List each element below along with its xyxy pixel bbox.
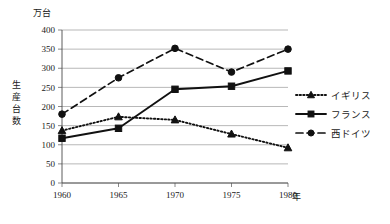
legend-label: フランス bbox=[331, 109, 371, 120]
circle-marker bbox=[308, 130, 314, 136]
x-unit-label: 年 bbox=[292, 191, 301, 202]
series-line bbox=[62, 48, 288, 114]
y-axis-title-char-3: 数 bbox=[12, 115, 21, 126]
x-tick-label: 1960 bbox=[53, 190, 72, 200]
gridlines bbox=[62, 30, 288, 183]
line-chart: 万台 生 産 台 数 050100150200250300350400 1960… bbox=[0, 0, 390, 224]
y-tick-label: 150 bbox=[42, 121, 56, 131]
y-tick-label: 350 bbox=[42, 44, 56, 54]
x-tick-label: 1970 bbox=[166, 190, 185, 200]
x-tick-label: 1975 bbox=[223, 190, 242, 200]
square-marker bbox=[308, 111, 314, 117]
y-unit-label-group: 万台 bbox=[33, 7, 51, 18]
chart-canvas: 万台 生 産 台 数 050100150200250300350400 1960… bbox=[0, 0, 390, 224]
x-tick-label: 1965 bbox=[110, 190, 129, 200]
legend-label: イギリス bbox=[331, 90, 371, 101]
square-marker bbox=[228, 83, 234, 89]
y-axis-title-char-1: 産 bbox=[12, 91, 21, 102]
square-marker bbox=[172, 86, 178, 92]
y-tick-label: 0 bbox=[51, 178, 56, 188]
circle-marker bbox=[285, 46, 292, 53]
y-tick-label: 200 bbox=[42, 102, 56, 112]
chart-legend: イギリスフランス西ドイツ bbox=[296, 90, 371, 139]
y-axis-title-char-0: 生 bbox=[12, 79, 21, 90]
y-tick-label: 300 bbox=[42, 63, 56, 73]
legend-item-0[interactable]: イギリス bbox=[296, 90, 371, 101]
y-tick-label: 100 bbox=[42, 140, 56, 150]
y-unit-label: 万台 bbox=[33, 7, 51, 18]
square-marker bbox=[115, 125, 121, 131]
legend-item-1[interactable]: フランス bbox=[296, 109, 371, 120]
series-1 bbox=[59, 68, 291, 142]
y-axis-title-char-2: 台 bbox=[12, 103, 21, 114]
y-tick-label: 50 bbox=[46, 159, 56, 169]
circle-marker bbox=[59, 111, 66, 118]
legend-item-2[interactable]: 西ドイツ bbox=[296, 128, 371, 139]
y-tick-label: 400 bbox=[42, 25, 56, 35]
circle-marker bbox=[228, 69, 235, 76]
y-axis-ticks: 050100150200250300350400 bbox=[42, 25, 63, 188]
square-marker bbox=[59, 135, 65, 141]
circle-marker bbox=[115, 75, 122, 82]
y-axis-title-group: 生 産 台 数 bbox=[12, 79, 21, 126]
square-marker bbox=[285, 68, 291, 74]
legend-label: 西ドイツ bbox=[331, 128, 371, 139]
series-layer bbox=[58, 45, 292, 151]
circle-marker bbox=[172, 45, 179, 52]
series-line bbox=[62, 71, 288, 138]
x-axis-ticks: 19601965197019751980 bbox=[53, 183, 298, 200]
y-tick-label: 250 bbox=[42, 83, 56, 93]
